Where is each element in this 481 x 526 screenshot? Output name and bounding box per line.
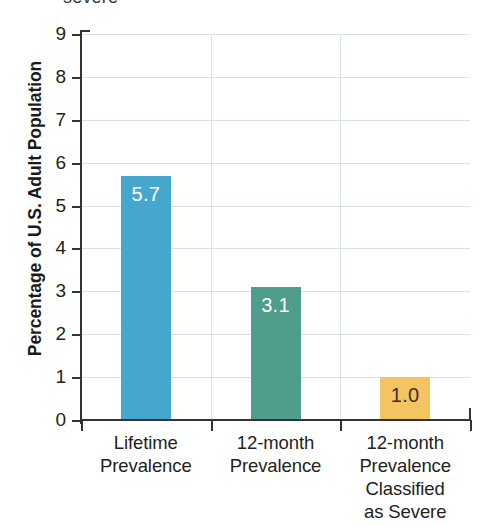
bar-value-label: 1.0 xyxy=(380,384,430,407)
y-axis-tick-label: 7 xyxy=(40,109,66,131)
x-axis-tick xyxy=(81,420,83,431)
x-axis-tick xyxy=(211,420,213,431)
x-axis-label-line: 12-month xyxy=(211,431,341,454)
x-axis-category-label: 12-monthPrevalenceClassifiedas Severe xyxy=(340,431,470,523)
x-axis-tick xyxy=(340,420,342,431)
x-axis-line xyxy=(81,419,471,421)
y-axis-tick-label: 6 xyxy=(40,152,66,174)
x-axis-label-line: Classified xyxy=(340,477,470,500)
category-separator xyxy=(340,34,341,420)
y-axis-tick xyxy=(72,34,81,36)
x-axis-category-label: 12-monthPrevalence xyxy=(211,431,341,477)
y-axis-tick xyxy=(72,291,81,293)
y-axis-tick xyxy=(72,120,81,122)
plot-area: 5.73.11.0 xyxy=(81,34,470,420)
gridline xyxy=(81,34,470,35)
y-axis-tick xyxy=(72,163,81,165)
bar[interactable]: 3.1 xyxy=(251,287,301,420)
gridline xyxy=(81,120,470,121)
x-axis-label-line: Prevalence xyxy=(81,454,211,477)
x-axis-label-line: Prevalence xyxy=(211,454,341,477)
bar-value-label: 5.7 xyxy=(121,183,171,206)
y-axis-tick-label: 9 xyxy=(40,23,66,45)
y-axis-tick-label: 5 xyxy=(40,195,66,217)
bar[interactable]: 5.7 xyxy=(121,176,171,420)
y-axis-tick xyxy=(72,377,81,379)
y-axis-tick xyxy=(72,420,81,422)
category-separator xyxy=(211,34,212,420)
x-axis-label-line: Lifetime xyxy=(81,431,211,454)
y-axis-tick xyxy=(72,248,81,250)
x-axis-tick xyxy=(470,420,472,431)
y-axis-tick xyxy=(72,206,81,208)
bar-chart-figure: severe Percentage of U.S. Adult Populati… xyxy=(0,0,481,526)
y-axis-tick-label: 4 xyxy=(40,237,66,259)
top-caption-fragment: severe xyxy=(63,0,118,8)
x-axis-label-line: Prevalence xyxy=(340,454,470,477)
y-axis-tick-label: 2 xyxy=(40,323,66,345)
x-axis-label-line: as Severe xyxy=(340,500,470,523)
y-axis-tick-label: 8 xyxy=(40,66,66,88)
x-axis-label-line: 12-month xyxy=(340,431,470,454)
y-axis-tick-label: 1 xyxy=(40,366,66,388)
gridline xyxy=(81,163,470,164)
y-axis-line xyxy=(80,30,82,424)
y-axis-tick xyxy=(72,334,81,336)
bar-value-label: 3.1 xyxy=(251,294,301,317)
x-axis-category-label: LifetimePrevalence xyxy=(81,431,211,477)
gridline xyxy=(81,77,470,78)
y-axis-top-cap xyxy=(81,30,90,32)
bar[interactable]: 1.0 xyxy=(380,377,430,420)
y-axis-tick xyxy=(72,77,81,79)
y-axis-tick-label: 3 xyxy=(40,280,66,302)
y-axis-tick-label: 0 xyxy=(40,409,66,431)
